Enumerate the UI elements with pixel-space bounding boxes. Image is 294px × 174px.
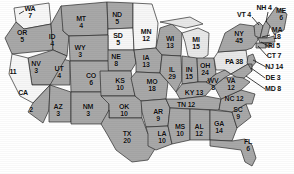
map-svg <box>0 0 294 174</box>
state-MT[interactable] <box>61 2 108 36</box>
us-electoral-vote-map: WA 7OR 5ID 4MT 4ND 5SD 5MN 12WI 13MI 15W… <box>0 0 294 174</box>
state-MS[interactable] <box>168 108 190 144</box>
state-AR[interactable] <box>141 99 170 127</box>
state-AZ[interactable] <box>49 85 71 122</box>
state-IA[interactable] <box>134 48 162 73</box>
state-KS[interactable] <box>100 71 135 96</box>
state-IN[interactable] <box>182 56 198 84</box>
state-WY[interactable] <box>69 35 108 61</box>
state-MN[interactable] <box>133 3 158 50</box>
state-MO[interactable] <box>131 72 168 101</box>
state-ND[interactable] <box>107 2 133 29</box>
state-AL[interactable] <box>190 109 210 140</box>
state-SD[interactable] <box>108 28 134 50</box>
